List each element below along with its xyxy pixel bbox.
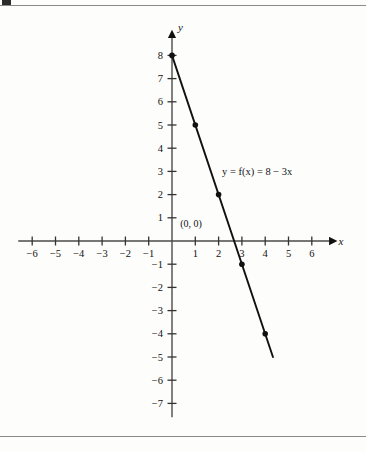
coordinate-plot: −6−5−4−3−2−112345687654321−1−2−3−4−5−6−7…: [0, 0, 366, 452]
x-tick-label: 1: [193, 248, 198, 259]
x-tick-label: 5: [286, 248, 291, 259]
x-tick-label: −2: [120, 248, 131, 259]
origin-annotation: (0, 0): [180, 218, 202, 230]
tick-labels-group: −6−5−4−3−2−112345687654321−1−2−3−4−5−6−7: [27, 50, 315, 409]
x-tick-label: 2: [216, 248, 221, 259]
y-tick-label: 7: [158, 73, 163, 84]
equation-annotation: y = f(x) = 8 − 3x: [222, 166, 293, 178]
data-point: [169, 53, 175, 59]
y-tick-label: 3: [158, 166, 163, 177]
y-tick-label: −3: [152, 305, 163, 316]
data-point: [193, 122, 199, 128]
x-tick-label: −3: [97, 248, 108, 259]
y-tick-label: 5: [158, 120, 163, 131]
data-points-group: [169, 53, 268, 337]
y-tick-label: 6: [158, 96, 163, 107]
data-point: [239, 261, 245, 267]
data-series-group: [172, 55, 273, 357]
annotations-group: y = f(x) = 8 − 3x (0, 0) x y: [177, 21, 343, 247]
x-tick-label: −1: [143, 248, 154, 259]
x-tick-label: −4: [73, 248, 85, 259]
figure-page: −6−5−4−3−2−112345687654321−1−2−3−4−5−6−7…: [0, 0, 366, 452]
y-tick-label: −2: [152, 282, 163, 293]
y-tick-label: −5: [152, 352, 163, 363]
x-tick-label: −5: [50, 248, 61, 259]
y-tick-label: −4: [152, 328, 164, 339]
y-tick-label: 2: [158, 189, 163, 200]
graph-svg: −6−5−4−3−2−112345687654321−1−2−3−4−5−6−7…: [0, 0, 366, 452]
y-tick-label: −1: [152, 259, 163, 270]
data-point: [262, 331, 268, 337]
y-tick-label: 8: [158, 50, 163, 61]
x-tick-label: −6: [27, 248, 38, 259]
x-tick-label: 4: [263, 248, 269, 259]
data-point: [216, 192, 222, 198]
y-tick-label: 4: [158, 143, 164, 154]
y-tick-label: −7: [152, 398, 163, 409]
y-tick-label: 1: [158, 212, 163, 223]
function-line: [172, 55, 273, 357]
axes-group: [18, 37, 330, 417]
x-axis-label: x: [337, 235, 343, 247]
x-tick-label: 6: [309, 248, 314, 259]
y-tick-label: −6: [152, 375, 163, 386]
y-axis-label: y: [177, 21, 183, 33]
